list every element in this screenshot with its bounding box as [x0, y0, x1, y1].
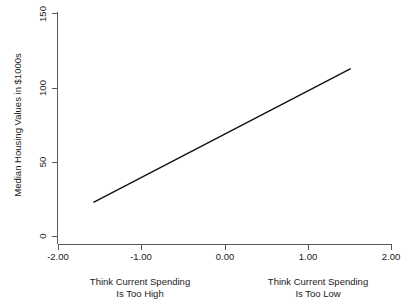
left-caption-line2: Is Too High — [116, 288, 163, 299]
y-tick-label-150: 150 — [37, 6, 48, 22]
left-caption-line1: Think Current Spending — [90, 276, 190, 287]
y-tick-label-100: 100 — [37, 80, 48, 96]
x-tick-label-zero: 0.00 — [216, 251, 235, 262]
y-tick-label-50: 50 — [37, 157, 48, 168]
y-axis-title: Median Housing Values in $1000s — [12, 53, 23, 197]
x-tick-label-pos2: 2.00 — [382, 251, 401, 262]
line-chart-canvas: 0 50 100 150 Median Housing Values in $1… — [0, 0, 413, 307]
right-caption-line2: Is Too Low — [295, 288, 340, 299]
x-tick-label-neg2: -2.00 — [47, 251, 69, 262]
chart-figure: 0 50 100 150 Median Housing Values in $1… — [0, 0, 413, 307]
x-tick-label-neg1: -1.00 — [130, 251, 152, 262]
right-caption-line1: Think Current Spending — [268, 276, 368, 287]
y-tick-label-0: 0 — [37, 233, 48, 238]
x-tick-label-pos1: 1.00 — [299, 251, 318, 262]
